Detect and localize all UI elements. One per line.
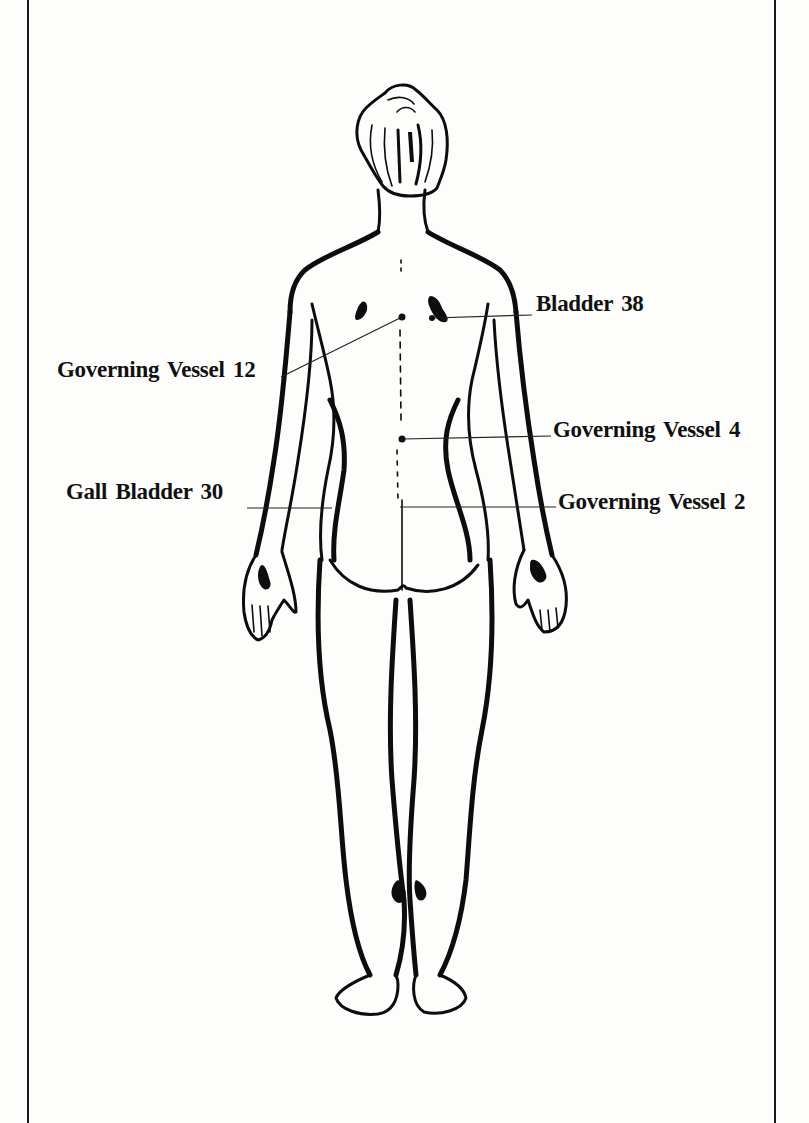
illustration-page: Bladder 38 Governing Vessel 12 Governing… xyxy=(0,0,809,1123)
point-marker-bladder-38 xyxy=(429,315,435,321)
label-governing-vessel-12: Governing Vessel 12 xyxy=(57,356,255,384)
label-bladder-38: Bladder 38 xyxy=(536,290,644,318)
leader-governing-vessel-12 xyxy=(281,317,402,377)
human-figure-back-view xyxy=(0,0,809,1123)
torso xyxy=(290,232,516,591)
label-gall-bladder-30: Gall Bladder 30 xyxy=(66,478,223,506)
point-marker-governing-vessel-12 xyxy=(399,314,406,321)
label-governing-vessel-4: Governing Vessel 4 xyxy=(553,416,740,444)
head xyxy=(357,85,447,196)
acupoint-markers xyxy=(247,314,556,509)
left-leg xyxy=(318,560,405,1014)
label-governing-vessel-2: Governing Vessel 2 xyxy=(558,488,745,516)
right-leg xyxy=(409,560,492,1013)
point-marker-governing-vessel-4 xyxy=(399,436,406,443)
right-arm xyxy=(494,312,566,632)
